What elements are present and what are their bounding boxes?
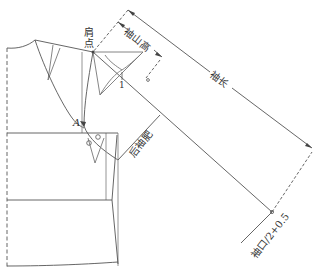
- cuff-dashed-ext: [272, 152, 312, 212]
- armhole-curve: [35, 40, 84, 128]
- cap-point-marker: [147, 79, 150, 82]
- sleeve-armhole-curve: [84, 52, 118, 160]
- arrowhead-icon: [128, 10, 135, 16]
- sleeve-length-ext-top: [93, 10, 128, 52]
- sleeve-length-dim-2: [232, 88, 312, 148]
- arrowhead-icon: [155, 52, 162, 57]
- shoulder-dart: [48, 45, 60, 80]
- back-sleeve-width-ext: [146, 60, 160, 78]
- back-neck-curve: [7, 40, 35, 48]
- sleeve-center-line: [93, 52, 272, 212]
- notch-circle-icon: [96, 135, 101, 140]
- shoulder-point-label-2: 点: [84, 39, 94, 49]
- sleeve-cap-curve-2: [122, 52, 143, 70]
- underarm-dart: [88, 138, 104, 163]
- side-seam: [112, 135, 118, 264]
- hem-line: [7, 262, 118, 266]
- point-a-label: A: [73, 118, 80, 128]
- mark-1-label: 1: [119, 81, 125, 90]
- sleeve-cap-curve-3: [105, 55, 122, 70]
- shoulder-point-dot: [92, 51, 95, 54]
- shoulder-point-label-1: 肩: [84, 28, 94, 38]
